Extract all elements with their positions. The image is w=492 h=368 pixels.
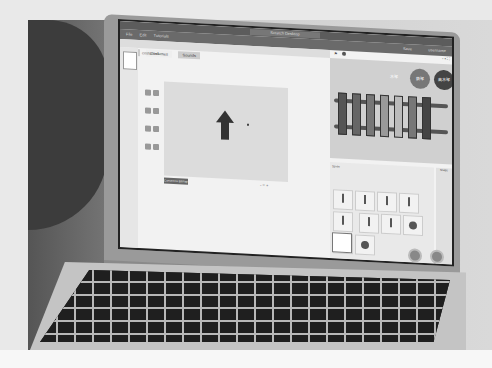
save-button[interactable]: Save — [403, 44, 412, 54]
sprite-tile[interactable] — [381, 214, 401, 235]
zoom-in-button[interactable]: + — [266, 183, 268, 188]
sprite-tile[interactable] — [355, 190, 375, 211]
stage[interactable]: 木琴 鉄琴 高木琴 — [330, 58, 452, 164]
photo-border — [0, 350, 492, 368]
xylophone-bar[interactable] — [338, 93, 347, 135]
choose-sprite-button[interactable] — [408, 248, 422, 263]
sprite-panel: Sprite — [330, 162, 434, 263]
xylophone-bar[interactable] — [380, 95, 389, 137]
sprite-info: Sprite — [332, 164, 432, 189]
xylophone-bar[interactable] — [394, 95, 403, 137]
zoom-controls: - = + — [260, 182, 268, 187]
choose-backdrop-button[interactable] — [430, 249, 444, 264]
keyboard-rows — [40, 270, 450, 342]
menu-tutorials[interactable]: Tutorials — [154, 33, 169, 39]
arrow-stem — [221, 121, 229, 139]
costume-thumbnail[interactable] — [123, 51, 137, 70]
stop-icon[interactable] — [342, 52, 346, 56]
eraser-tool-icon[interactable] — [153, 108, 159, 114]
reshape-tool-icon[interactable] — [153, 90, 159, 96]
sprite-tile[interactable] — [359, 213, 379, 234]
sprite-tile[interactable] — [355, 234, 375, 255]
paint-tools — [144, 82, 160, 143]
stage-button-a[interactable]: 鉄琴 — [410, 68, 430, 89]
menu-edit[interactable]: Edit — [140, 32, 147, 37]
green-flag-icon[interactable]: ⚑ — [334, 51, 338, 56]
menu-file[interactable]: File — [126, 31, 132, 36]
center-marker — [247, 124, 249, 126]
text-tool-icon[interactable] — [153, 126, 159, 132]
sprite-tile[interactable] — [403, 215, 423, 236]
selected-sprite-tile[interactable] — [332, 232, 352, 253]
xylophone-bar[interactable] — [366, 94, 375, 136]
xylophone-label: 木琴 — [390, 73, 398, 79]
sprite-label: Sprite — [332, 164, 340, 168]
sprite-tile[interactable] — [377, 192, 397, 213]
sprite-tile[interactable] — [333, 211, 353, 232]
stage-size-buttons[interactable]: ▫ ▪ ⛶ — [442, 56, 450, 61]
xylophone-bar[interactable] — [352, 93, 361, 135]
xylophone-bar[interactable] — [408, 96, 417, 138]
stage-label: Stage — [440, 168, 448, 172]
circle-tool-icon[interactable] — [153, 144, 159, 150]
stage-button-b[interactable]: 高木琴 — [434, 70, 454, 91]
zoom-reset-button[interactable]: = — [262, 183, 264, 188]
laptop-screen: Scratch Desktop File Edit Tutorials Save… — [118, 19, 454, 267]
sprite-tile[interactable] — [399, 193, 419, 214]
sprite-tile[interactable] — [333, 189, 353, 210]
xylophone-bar[interactable] — [422, 97, 431, 139]
line-tool-icon[interactable] — [145, 143, 151, 149]
convert-to-bitmap-button[interactable]: Convert to Bitmap — [164, 177, 188, 184]
costume-name[interactable]: costume1 — [142, 50, 159, 56]
select-tool-icon[interactable] — [145, 89, 151, 95]
fill-tool-icon[interactable] — [145, 125, 151, 131]
costume-list — [120, 47, 138, 248]
paint-canvas[interactable] — [164, 81, 288, 181]
brush-tool-icon[interactable] — [145, 107, 151, 113]
